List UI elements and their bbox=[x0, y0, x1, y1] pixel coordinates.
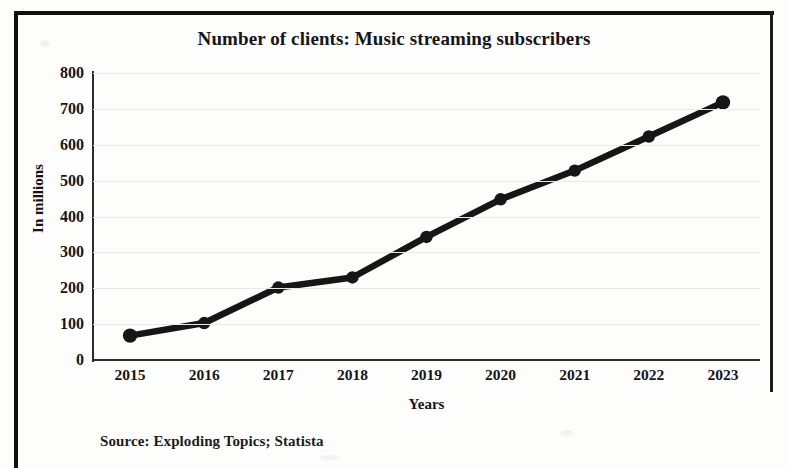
y-axis-tick-label: 0 bbox=[28, 351, 84, 369]
plot-area bbox=[93, 73, 760, 360]
data-point-marker bbox=[494, 193, 506, 205]
data-point-marker bbox=[123, 328, 137, 342]
gridline bbox=[93, 288, 760, 289]
data-point-marker bbox=[198, 317, 210, 329]
gridline bbox=[93, 181, 760, 182]
series-line bbox=[130, 102, 723, 335]
y-axis-tick-label: 800 bbox=[28, 64, 84, 82]
scan-speckle bbox=[560, 430, 574, 436]
x-axis-label: Years bbox=[93, 396, 760, 413]
chart-figure: Number of clients: Music streaming subsc… bbox=[0, 0, 789, 468]
data-point-marker bbox=[420, 231, 432, 243]
gridline bbox=[93, 145, 760, 146]
frame-border-top bbox=[14, 11, 774, 15]
data-point-marker bbox=[716, 95, 730, 109]
frame-border-left bbox=[14, 11, 18, 468]
x-axis-tick-group: 201520162017201820192020202120222023 bbox=[93, 366, 760, 392]
x-axis-tick-label: 2021 bbox=[540, 366, 610, 384]
gridline bbox=[93, 324, 760, 325]
gridline bbox=[93, 252, 760, 253]
y-axis-tick-label: 400 bbox=[28, 208, 84, 226]
y-axis-tick-label: 300 bbox=[28, 243, 84, 261]
y-axis-tick-label: 600 bbox=[28, 136, 84, 154]
data-point-marker bbox=[569, 164, 581, 176]
scan-speckle bbox=[320, 455, 340, 460]
x-axis-tick-label: 2015 bbox=[95, 366, 165, 384]
chart-title: Number of clients: Music streaming subsc… bbox=[18, 28, 770, 50]
source-note: Source: Exploding Topics; Statista bbox=[100, 433, 324, 450]
frame-border-right bbox=[770, 11, 773, 392]
x-axis-tick-label: 2022 bbox=[614, 366, 684, 384]
x-axis-tick-label: 2016 bbox=[169, 366, 239, 384]
x-axis-tick-label: 2020 bbox=[466, 366, 536, 384]
x-axis-tick-label: 2017 bbox=[243, 366, 313, 384]
gridline bbox=[93, 73, 760, 74]
y-axis-tick-group: 0100200300400500600700800 bbox=[22, 73, 84, 360]
data-point-marker bbox=[643, 130, 655, 142]
x-axis-tick-label: 2023 bbox=[688, 366, 758, 384]
y-axis-tick-label: 700 bbox=[28, 100, 84, 118]
x-axis-tick-label: 2019 bbox=[392, 366, 462, 384]
y-axis-tick-label: 100 bbox=[28, 315, 84, 333]
y-axis-tick-label: 200 bbox=[28, 279, 84, 297]
gridline bbox=[93, 217, 760, 218]
gridline bbox=[93, 109, 760, 110]
data-point-marker bbox=[346, 271, 358, 283]
x-axis-tick-label: 2018 bbox=[317, 366, 387, 384]
y-axis-tick-label: 500 bbox=[28, 172, 84, 190]
